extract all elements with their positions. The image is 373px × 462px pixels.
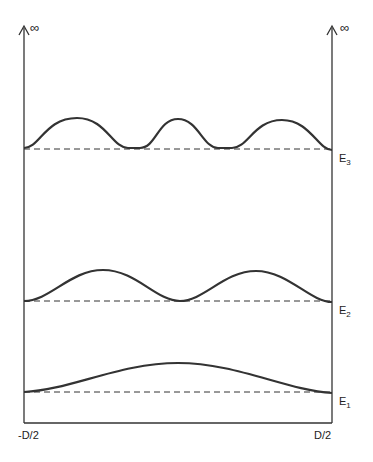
right-position-label: D/2 bbox=[314, 429, 331, 441]
box-diagram bbox=[0, 0, 373, 462]
e2-label: E2 bbox=[339, 304, 351, 319]
left-infinity-label: ∞ bbox=[30, 20, 39, 35]
e1-wavefunction bbox=[24, 363, 332, 393]
e1-label: E1 bbox=[339, 395, 351, 410]
e3-label: E3 bbox=[339, 152, 351, 167]
e2-wavefunction bbox=[24, 270, 332, 302]
right-infinity-label: ∞ bbox=[340, 20, 349, 35]
e3-wavefunction bbox=[24, 118, 332, 150]
left-position-label: -D/2 bbox=[18, 429, 39, 441]
